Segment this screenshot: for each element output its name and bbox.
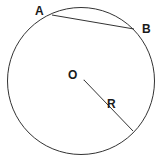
label-r: R	[107, 97, 116, 111]
circle-diagram: A B O R	[0, 0, 159, 155]
center-point	[83, 79, 84, 80]
chord-ab	[52, 15, 134, 29]
label-b: B	[142, 22, 151, 36]
circle	[8, 8, 155, 155]
label-o: O	[68, 68, 77, 82]
label-a: A	[35, 4, 44, 18]
